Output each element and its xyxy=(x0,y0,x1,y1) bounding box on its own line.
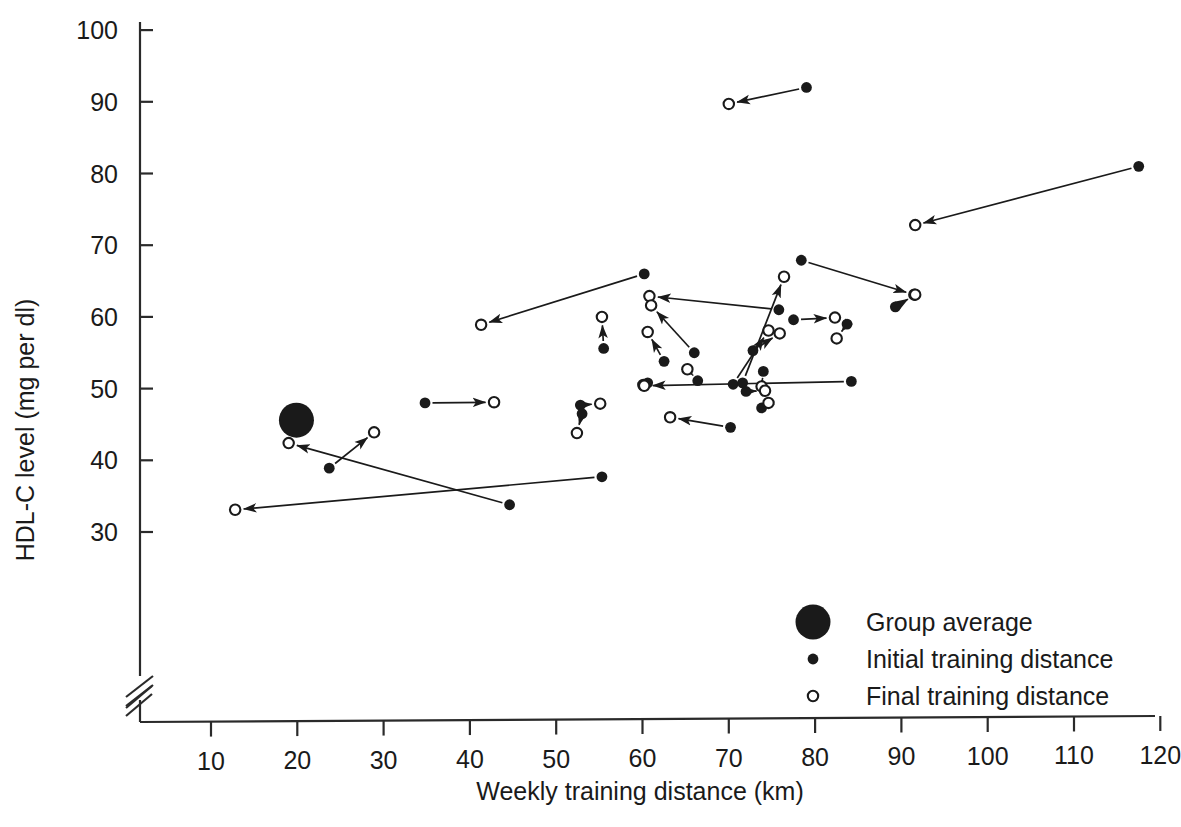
legend: Group averageInitial training distanceFi… xyxy=(796,605,1114,711)
y-axis-title-text: HDL-C level (mg per dl) xyxy=(11,299,39,562)
final-point-marker xyxy=(595,398,605,408)
initial-point-marker xyxy=(890,301,901,312)
change-arrow xyxy=(657,312,689,347)
initial-point-marker xyxy=(504,499,515,510)
final-point-marker xyxy=(230,505,240,515)
final-point-marker xyxy=(830,312,840,322)
change-arrow xyxy=(652,339,661,354)
final-point-marker xyxy=(369,427,379,437)
initial-point-marker xyxy=(725,422,736,433)
initial-point-marker xyxy=(748,345,759,356)
initial-point-marker xyxy=(324,463,335,474)
legend-item-label: Final training distance xyxy=(866,682,1109,710)
change-arrow xyxy=(335,438,367,464)
group-average-marker xyxy=(279,403,314,438)
x-tick-label: 50 xyxy=(542,745,570,773)
change-arrow xyxy=(679,419,724,426)
x-tick-label: 90 xyxy=(887,742,915,770)
final-point-marker xyxy=(763,325,773,335)
x-tick-label: 60 xyxy=(629,744,657,772)
final-point-marker xyxy=(639,381,649,391)
initial-point-marker xyxy=(741,386,752,397)
change-arrow xyxy=(923,168,1131,223)
y-tick-label: 30 xyxy=(90,518,118,546)
connector-arrows xyxy=(244,89,1132,509)
change-arrow xyxy=(489,276,637,322)
x-tick-label: 110 xyxy=(1054,741,1094,769)
final-point-marker xyxy=(476,320,486,330)
y-tick-label: 90 xyxy=(90,88,118,116)
legend-item-label: Initial training distance xyxy=(866,645,1113,673)
initial-point-marker xyxy=(639,268,650,279)
final-point-marker xyxy=(665,412,675,422)
y-tick-label: 40 xyxy=(90,446,118,474)
initial-point-marker xyxy=(659,356,670,367)
x-tick-label: 70 xyxy=(715,744,743,772)
initial-point-marker xyxy=(597,471,608,482)
legend-initial-dot-icon xyxy=(808,654,819,665)
final-point-marker xyxy=(760,386,770,396)
y-tick-label: 80 xyxy=(90,160,118,188)
change-arrow xyxy=(808,262,906,292)
legend-item-label: Group average xyxy=(866,608,1033,636)
x-tick-label: 120 xyxy=(1139,741,1181,769)
y-tick-label: 60 xyxy=(90,303,118,331)
initial-point-marker xyxy=(801,82,812,93)
y-tick-label: 70 xyxy=(90,231,118,259)
y-tick-label: 50 xyxy=(90,375,118,403)
x-tick-label: 30 xyxy=(370,746,398,774)
change-arrow xyxy=(653,382,844,386)
change-arrow xyxy=(602,325,603,341)
x-tick-label: 100 xyxy=(967,742,1009,770)
change-arrow xyxy=(842,330,843,331)
initial-point-marker xyxy=(1133,161,1144,172)
final-point-marker xyxy=(646,300,656,310)
plot-svg: 3040506070809010010203040506070809010011… xyxy=(0,0,1181,827)
change-arrow xyxy=(244,477,595,509)
initial-point-marker xyxy=(420,398,431,409)
final-point-marker xyxy=(682,364,692,374)
change-arrow xyxy=(433,402,486,403)
change-arrow xyxy=(737,89,799,102)
initial-point-marker xyxy=(796,255,807,266)
x-axis-title-text: Weekly training distance (km) xyxy=(476,777,803,805)
initial-point-marker xyxy=(692,375,703,386)
change-arrow xyxy=(579,421,580,425)
change-arrow xyxy=(801,318,826,319)
final-point-marker xyxy=(775,328,785,338)
data-points xyxy=(230,82,1144,515)
final-point-marker xyxy=(910,220,920,230)
x-tick-label: 80 xyxy=(801,743,829,771)
initial-point-marker xyxy=(758,366,769,377)
initial-point-marker xyxy=(846,376,857,387)
initial-point-marker xyxy=(689,347,700,358)
legend-group-average-icon xyxy=(796,605,831,640)
initial-point-marker xyxy=(773,304,784,315)
final-point-marker xyxy=(779,272,789,282)
final-point-marker xyxy=(642,327,652,337)
initial-point-marker xyxy=(577,408,588,419)
x-tick-label: 10 xyxy=(197,747,225,775)
x-tick-label: 20 xyxy=(283,746,311,774)
scatter-plot-figure: 3040506070809010010203040506070809010011… xyxy=(0,0,1181,827)
final-point-marker xyxy=(910,289,920,299)
initial-point-marker xyxy=(788,314,799,325)
final-point-marker xyxy=(283,438,293,448)
final-point-marker xyxy=(489,397,499,407)
final-point-marker xyxy=(831,333,841,343)
initial-point-marker xyxy=(598,343,609,354)
y-tick-label: 100 xyxy=(76,16,118,44)
legend-final-circle-icon xyxy=(808,691,818,701)
change-arrow xyxy=(902,299,908,303)
final-point-marker xyxy=(724,99,734,109)
y-axis-title: HDL-C level (mg per dl) xyxy=(11,299,39,562)
initial-point-marker xyxy=(728,379,739,390)
final-point-marker xyxy=(572,428,582,438)
final-point-marker xyxy=(597,312,607,322)
initial-point-marker xyxy=(842,319,853,330)
x-tick-label: 40 xyxy=(456,745,484,773)
change-arrow xyxy=(658,297,772,309)
final-point-marker xyxy=(763,398,773,408)
